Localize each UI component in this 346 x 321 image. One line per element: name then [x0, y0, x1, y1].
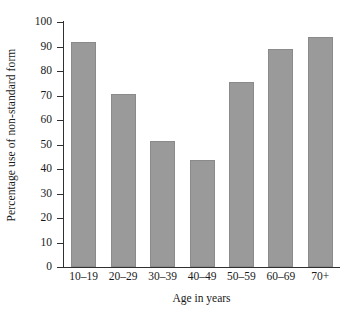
- y-axis-tick-label: 40: [6, 163, 52, 175]
- x-axis-line: [63, 267, 340, 268]
- y-axis-tick-label: 10: [6, 237, 52, 249]
- bar: [229, 82, 254, 267]
- y-axis-tick: [57, 120, 64, 121]
- y-axis-tick-label: 20: [6, 212, 52, 224]
- y-axis-tick: [57, 22, 64, 23]
- bar: [71, 42, 96, 267]
- x-axis-tick-label: 70+: [291, 271, 346, 283]
- y-axis-tick: [57, 194, 64, 195]
- x-axis-title: Age in years: [63, 292, 340, 304]
- bar: [111, 94, 136, 267]
- bar-chart: Percentage use of non-standard form 1009…: [0, 0, 346, 321]
- y-axis-tick: [57, 169, 64, 170]
- y-axis-tick: [57, 267, 64, 268]
- y-axis-tick-label: 30: [6, 188, 52, 200]
- bar: [268, 49, 293, 267]
- y-axis-tick-label: 0: [6, 261, 52, 273]
- y-axis-tick-label: 60: [6, 114, 52, 126]
- y-axis-tick-label: 70: [6, 90, 52, 102]
- bar: [308, 37, 333, 267]
- y-axis-tick-label: 100: [6, 16, 52, 28]
- y-axis-tick-label: 90: [6, 41, 52, 53]
- bar: [150, 141, 175, 267]
- y-axis-tick: [57, 145, 64, 146]
- y-axis-tick-label: 80: [6, 65, 52, 77]
- y-axis-tick: [57, 71, 64, 72]
- bar: [190, 160, 215, 267]
- y-axis-tick: [57, 243, 64, 244]
- y-axis-tick: [57, 47, 64, 48]
- y-axis-tick-label: 50: [6, 139, 52, 151]
- y-axis-tick: [57, 218, 64, 219]
- y-axis-tick: [57, 96, 64, 97]
